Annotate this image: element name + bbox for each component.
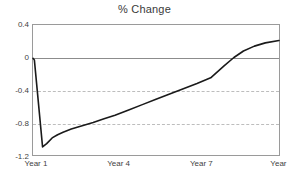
x-axis-tick-1: Year 4 [107, 159, 130, 168]
series-line-pct-change [33, 40, 279, 146]
y-axis-tick-3: -0.8 [0, 119, 29, 128]
x-axis-tick-0: Year 1 [25, 159, 48, 168]
y-axis-tick-2: -0.4 [0, 86, 29, 95]
x-axis-tick-2: Year 7 [190, 159, 213, 168]
series-line-chart [33, 25, 279, 155]
chart-container: % Change 0.40-0.4-0.8-1.2 Year 1Year 4Ye… [0, 0, 289, 176]
chart-title: % Change [0, 3, 289, 15]
plot-area [32, 24, 280, 156]
y-axis-tick-1: 0 [0, 53, 29, 62]
y-axis-tick-0: 0.4 [0, 20, 29, 29]
x-axis-tick-3: Year 10 [270, 159, 289, 168]
